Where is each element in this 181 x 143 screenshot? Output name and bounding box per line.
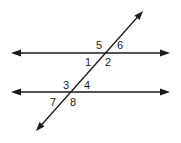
parallel-lines-diagram: 5 6 1 2 3 4 7 8 xyxy=(0,0,181,143)
parallel-line-bottom xyxy=(11,89,170,96)
transversal-line xyxy=(36,11,143,131)
angle-label-4: 4 xyxy=(84,79,90,91)
angle-label-7: 7 xyxy=(50,96,56,108)
angle-label-1: 1 xyxy=(85,56,91,68)
angle-label-2: 2 xyxy=(105,56,111,68)
arrowhead-right-icon xyxy=(160,50,170,57)
angle-label-3: 3 xyxy=(63,79,69,91)
angle-label-8: 8 xyxy=(70,96,76,108)
arrowhead-right-icon xyxy=(160,89,170,96)
angle-label-5: 5 xyxy=(96,39,102,51)
angle-label-6: 6 xyxy=(117,39,123,51)
arrowhead-left-icon xyxy=(11,50,21,57)
arrowhead-left-icon xyxy=(11,89,21,96)
